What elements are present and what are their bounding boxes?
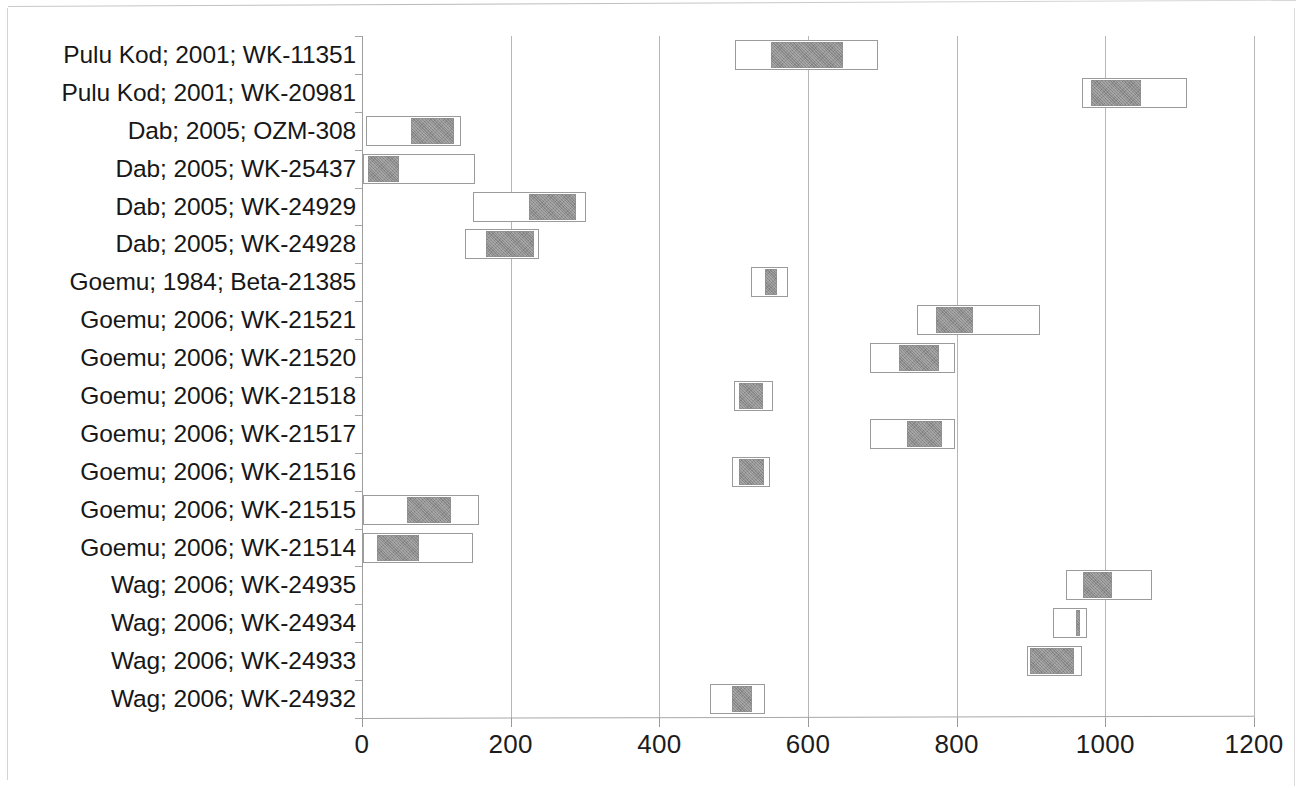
outer-range-bar (917, 305, 1040, 335)
category-label: Wag; 2006; WK-24932 (8, 686, 356, 712)
inner-range-bar (899, 345, 939, 371)
outer-range-bar (1027, 646, 1083, 676)
y-tick (355, 529, 362, 530)
y-tick (355, 301, 362, 302)
x-tick-label-0: 0 (355, 729, 370, 759)
outer-range-bar (1053, 608, 1088, 638)
inner-range-bar (377, 535, 419, 561)
category-label: Wag; 2006; WK-24935 (8, 572, 356, 598)
range-bar (362, 684, 1254, 714)
x-tick-400 (659, 718, 660, 727)
range-bar (362, 192, 1254, 222)
outer-range-bar (1082, 78, 1188, 108)
category-label: Wag; 2006; WK-24934 (8, 610, 356, 636)
x-tick-label-600: 600 (786, 729, 830, 759)
y-tick (355, 150, 362, 151)
range-bar (362, 533, 1254, 563)
range-bar (362, 457, 1254, 487)
y-tick (355, 188, 362, 189)
y-tick (355, 566, 362, 567)
inner-range-bar (739, 383, 763, 409)
category-label: Goemu; 2006; WK-21516 (8, 459, 356, 485)
range-bar (362, 419, 1254, 449)
range-bar (362, 267, 1254, 297)
range-bar (362, 343, 1254, 373)
x-tick-label-200: 200 (489, 729, 533, 759)
inner-range-bar (407, 497, 451, 523)
x-tick-200 (511, 718, 512, 727)
inner-range-bar (765, 269, 777, 295)
range-bar-chart: Pulu Kod; 2001; WK-11351Pulu Kod; 2001; … (0, 0, 1299, 788)
outer-range-bar (1066, 570, 1152, 600)
category-label: Goemu; 2006; WK-21515 (8, 497, 356, 523)
y-tick (355, 491, 362, 492)
category-label: Pulu Kod; 2001; WK-20981 (8, 80, 356, 106)
x-tick-label-400: 400 (637, 729, 681, 759)
inner-range-bar (907, 421, 942, 447)
inner-range-bar (771, 42, 843, 68)
category-label: Dab; 2005; WK-25437 (8, 156, 356, 182)
outer-range-bar (366, 116, 461, 146)
inner-range-bar (1083, 572, 1112, 598)
category-label: Goemu; 2006; WK-21517 (8, 421, 356, 447)
outer-range-bar (732, 457, 770, 487)
category-label: Goemu; 2006; WK-21521 (8, 307, 356, 333)
y-tick (355, 36, 362, 37)
outer-range-bar (465, 229, 539, 259)
category-label: Goemu; 2006; WK-21520 (8, 345, 356, 371)
x-tick-800 (957, 718, 958, 727)
y-tick (355, 225, 362, 226)
y-tick (355, 604, 362, 605)
range-bar (362, 608, 1254, 638)
range-bar (362, 646, 1254, 676)
y-tick (355, 680, 362, 681)
range-bar (362, 381, 1254, 411)
outer-range-bar (735, 40, 878, 70)
category-label: Wag; 2006; WK-24933 (8, 648, 356, 674)
x-tick-label-1200: 1200 (1224, 729, 1283, 759)
inner-range-bar (1091, 80, 1141, 106)
range-bar (362, 116, 1254, 146)
category-label: Goemu; 2006; WK-21514 (8, 535, 356, 561)
category-label: Dab; 2005; WK-24928 (8, 231, 356, 257)
y-tick (355, 74, 362, 75)
outer-range-bar (734, 381, 773, 411)
outer-range-bar (363, 495, 479, 525)
range-bar (362, 40, 1254, 70)
category-label: Pulu Kod; 2001; WK-11351 (8, 42, 356, 68)
outer-range-bar (870, 343, 955, 373)
y-tick (355, 377, 362, 378)
inner-range-bar (732, 686, 752, 712)
outer-range-bar (870, 419, 955, 449)
range-bar (362, 495, 1254, 525)
y-tick (355, 339, 362, 340)
inner-range-bar (936, 307, 973, 333)
x-tick-1000 (1105, 718, 1106, 727)
category-axis-labels: Pulu Kod; 2001; WK-11351Pulu Kod; 2001; … (8, 36, 356, 718)
outer-range-bar (751, 267, 788, 297)
inner-range-bar (1030, 648, 1075, 674)
outer-range-bar (710, 684, 765, 714)
x-tick-label-1000: 1000 (1076, 729, 1135, 759)
range-bar (362, 570, 1254, 600)
inner-range-bar (411, 118, 454, 144)
inner-range-bar (529, 194, 577, 220)
y-tick (355, 718, 362, 719)
category-label: Goemu; 1984; Beta-21385 (8, 269, 356, 295)
inner-range-bar (1076, 610, 1080, 636)
inner-range-bar (739, 459, 764, 485)
y-tick (355, 263, 362, 264)
x-tick-600 (808, 718, 809, 727)
range-bar (362, 78, 1254, 108)
y-tick (355, 453, 362, 454)
y-tick (355, 112, 362, 113)
inner-range-bar (486, 231, 534, 257)
outer-range-bar (363, 154, 475, 184)
plot-area (362, 36, 1254, 718)
x-tick-0 (362, 718, 363, 727)
x-tick-label-800: 800 (935, 729, 979, 759)
y-tick (355, 642, 362, 643)
gridline-1200 (1254, 36, 1255, 718)
category-label: Goemu; 2006; WK-21518 (8, 383, 356, 409)
range-bar (362, 229, 1254, 259)
